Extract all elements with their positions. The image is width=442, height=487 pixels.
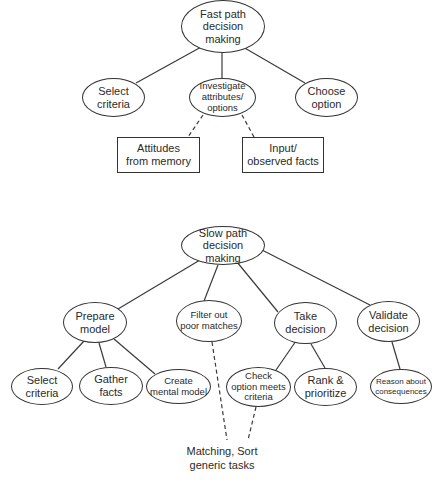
fast-investigate-node: Investigate attributes/ options bbox=[189, 78, 256, 117]
node-label: Slow path decision making bbox=[199, 227, 247, 265]
node-label: Investigate attributes/ options bbox=[200, 81, 246, 114]
solid-connector bbox=[243, 47, 305, 83]
validate-decision-node: Validate decision bbox=[357, 301, 420, 342]
node-label: Select criteria bbox=[97, 85, 130, 110]
slow-path-root-node: Slow path decision making bbox=[181, 226, 265, 265]
filter-out-node: Filter out poor matches bbox=[176, 300, 242, 342]
prepare-model-node: Prepare model bbox=[63, 302, 127, 343]
dashed-connector bbox=[248, 407, 256, 440]
solid-connector bbox=[136, 46, 203, 83]
solid-connector bbox=[237, 262, 278, 312]
node-label: Prepare model bbox=[75, 310, 114, 335]
node-label: Select criteria bbox=[25, 374, 58, 399]
node-label: Filter out poor matches bbox=[180, 310, 238, 332]
dashed-connector bbox=[212, 342, 227, 440]
solid-connector bbox=[276, 341, 296, 370]
fast-select-criteria-node: Select criteria bbox=[82, 78, 145, 117]
box-label: Attitudes from memory bbox=[126, 142, 191, 167]
solid-connector bbox=[99, 343, 106, 367]
node-label: Validate decision bbox=[368, 309, 408, 334]
dashed-connector bbox=[188, 115, 203, 137]
observed-facts-box: Input/ observed facts bbox=[242, 137, 324, 173]
solid-connector bbox=[262, 250, 370, 305]
diagram-canvas: Fast path decision making Select criteri… bbox=[0, 0, 442, 487]
dashed-connector bbox=[242, 115, 254, 137]
node-label: Choose option bbox=[308, 85, 346, 110]
check-option-node: Check option meets criteria bbox=[226, 367, 291, 407]
node-label: Gather facts bbox=[94, 373, 128, 398]
node-label: Take decision bbox=[285, 310, 325, 335]
take-decision-node: Take decision bbox=[274, 302, 337, 344]
create-mental-model-node: Create mental model bbox=[146, 369, 211, 404]
box-label: Input/ observed facts bbox=[247, 142, 319, 167]
fast-path-root-node: Fast path decision making bbox=[181, 0, 265, 53]
rank-prioritize-node: Rank & prioritize bbox=[294, 368, 357, 406]
generic-tasks-label: Matching, Sort generic tasks bbox=[172, 445, 272, 473]
solid-connector bbox=[311, 344, 325, 368]
node-label: Create mental model bbox=[150, 376, 207, 398]
solid-connector bbox=[392, 342, 400, 369]
fast-choose-option-node: Choose option bbox=[295, 78, 358, 117]
solid-connector bbox=[204, 265, 218, 301]
solid-connector bbox=[58, 341, 84, 369]
node-label: Check option meets criteria bbox=[231, 371, 285, 404]
reason-consequences-node: Reason about consequences bbox=[370, 369, 432, 404]
node-label: Fast path decision making bbox=[200, 8, 246, 46]
solid-connector bbox=[118, 260, 200, 309]
node-label: Reason about consequences bbox=[375, 377, 427, 395]
attitudes-from-memory-box: Attitudes from memory bbox=[117, 137, 200, 173]
gather-facts-node: Gather facts bbox=[79, 367, 143, 405]
node-label: Rank & prioritize bbox=[305, 374, 347, 399]
slow-select-criteria-node: Select criteria bbox=[11, 368, 73, 405]
